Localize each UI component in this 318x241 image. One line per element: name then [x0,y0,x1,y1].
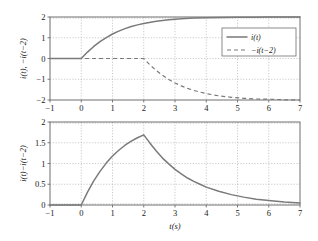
y-tick-label: 1 [41,33,45,43]
legend-label: i(t) [251,33,261,42]
y-tick-label: 2 [41,117,45,127]
x-tick-label: 1 [110,103,114,113]
x-tick-label: −1 [45,208,54,218]
x-tick-label: 4 [204,103,209,113]
x-axis-label: t(s) [169,221,181,231]
y-tick-label: −2 [36,95,45,105]
y-axis-label: i(t), −i(t−2) [18,38,28,79]
x-tick-label: 5 [235,103,239,113]
x-tick-label: 6 [267,103,271,113]
figure-container: −101234567−2−1012i(t), −i(t−2)−101234567… [0,0,318,241]
x-tick-label: 4 [204,208,209,218]
x-tick-label: 2 [142,208,146,218]
x-tick-label: 2 [142,103,146,113]
x-tick-label: −1 [45,103,54,113]
y-tick-label: 0 [41,200,45,210]
x-tick-label: 1 [110,208,114,218]
y-tick-label: 0 [41,54,45,64]
panel-bottom-panel: −10123456700.511.52i(t)−i(t−2)t(s) [18,117,302,231]
x-tick-label: 0 [79,103,83,113]
x-tick-label: 3 [173,103,177,113]
legend-label: −i(t−2) [251,46,276,55]
x-tick-label: 3 [173,208,177,218]
panel-top-panel: −101234567−2−1012i(t), −i(t−2) [18,12,302,113]
y-tick-label: −1 [36,74,45,84]
x-tick-label: 6 [267,208,271,218]
x-tick-label: 7 [298,208,302,218]
chart-svg: −101234567−2−1012i(t), −i(t−2)−101234567… [0,0,318,241]
y-tick-label: 1 [41,159,45,169]
x-tick-label: 7 [298,103,302,113]
y-tick-label: 2 [41,12,45,22]
legend: i(t)−i(t−2) [222,28,296,56]
x-tick-label: 0 [79,208,83,218]
y-axis-label: i(t)−i(t−2) [18,145,28,182]
y-tick-label: 0.5 [35,179,46,189]
y-tick-label: 1.5 [35,138,46,148]
x-tick-label: 5 [235,208,239,218]
